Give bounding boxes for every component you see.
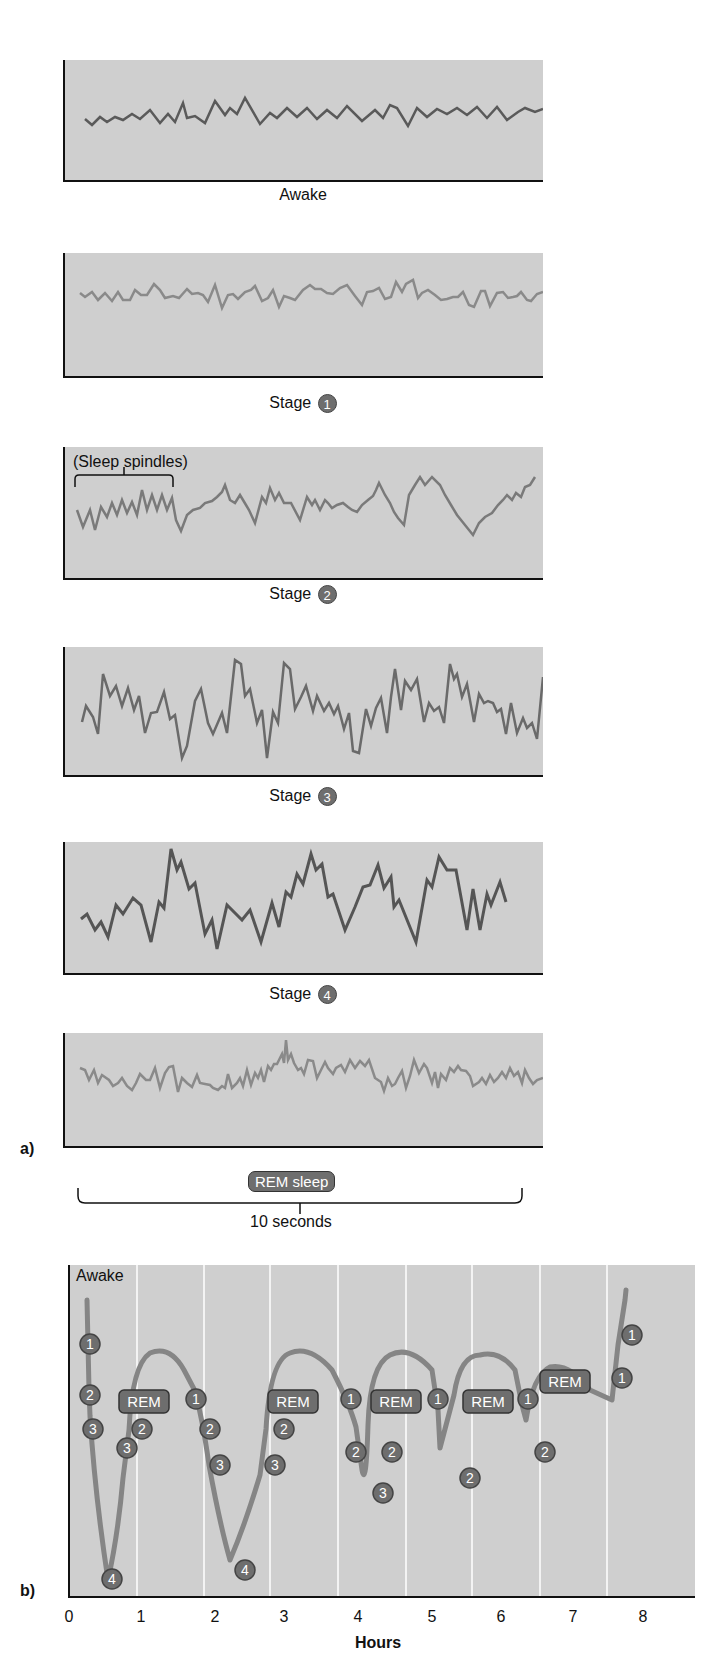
svg-text:2: 2 [280,1421,288,1437]
svg-text:3: 3 [123,1440,131,1456]
awake-axis-label: Awake [76,1267,124,1285]
svg-text:2: 2 [388,1444,396,1460]
marker-stage-1: 1 [341,1389,361,1409]
marker-stage-2: 2 [460,1468,480,1488]
x-tick: 7 [569,1608,578,1626]
panel-label-stage3: Stage 3 [0,787,606,806]
eeg-panel-rem [63,1033,543,1148]
marker-stage-1: 1 [80,1334,100,1354]
marker-rem: REM [119,1390,169,1413]
eeg-panel-stage3 [63,647,543,777]
eeg-panel-awake [63,60,543,182]
svg-text:1: 1 [524,1391,532,1407]
svg-text:REM: REM [276,1393,309,1410]
svg-text:2: 2 [541,1444,549,1460]
svg-text:2: 2 [138,1421,146,1437]
svg-text:1: 1 [628,1327,636,1343]
marker-stage-2: 2 [80,1385,100,1405]
marker-stage-2: 2 [535,1442,555,1462]
time-scale-label: 10 seconds [250,1213,332,1231]
label-text: Stage [269,985,311,1002]
marker-rem: REM [540,1370,590,1393]
eeg-trace-stage1 [65,253,543,376]
svg-text:3: 3 [89,1421,97,1437]
panel-label-stage4: Stage 4 [0,985,606,1004]
marker-stage-3: 3 [117,1438,137,1458]
marker-stage-2: 2 [132,1419,152,1439]
eeg-panel-stage2: (Sleep spindles) [63,447,543,580]
marker-stage-4: 4 [102,1569,122,1589]
hypnogram-line [87,1290,626,1580]
svg-text:2: 2 [466,1470,474,1486]
svg-text:2: 2 [352,1444,360,1460]
part-a-label: a) [20,1140,34,1158]
stage-badge: 2 [318,585,337,604]
sleep-spindles-annotation: (Sleep spindles) [73,453,188,470]
eeg-trace-rem [65,1033,543,1146]
marker-stage-3: 3 [265,1455,285,1475]
svg-text:REM: REM [548,1373,581,1390]
marker-stage-3: 3 [373,1483,393,1503]
label-text: Stage [269,585,311,602]
eeg-panel-stage4 [63,842,543,975]
svg-text:4: 4 [108,1571,116,1587]
marker-stage-3: 3 [210,1455,230,1475]
label-text: Stage [269,787,311,804]
x-tick: 5 [428,1608,437,1626]
part-b-label: b) [20,1582,35,1600]
svg-text:3: 3 [379,1485,387,1501]
eeg-trace-stage4 [65,842,543,973]
panel-label-stage1: Stage 1 [0,394,606,413]
ten-seconds-bracket [70,1186,530,1216]
stage-badge: 4 [318,985,337,1004]
label-text: Awake [279,186,327,203]
marker-stage-1: 1 [612,1368,632,1388]
x-tick: 3 [280,1608,289,1626]
marker-stage-3: 3 [83,1419,103,1439]
hypnogram-plot: 1 2 3 4 3 2 1 2 3 4 3 2 1 2 3 2 1 2 1 2 … [70,1265,695,1596]
x-tick: 4 [354,1608,363,1626]
svg-text:REM: REM [379,1393,412,1410]
eeg-trace-stage2: (Sleep spindles) [65,447,543,578]
marker-rem: REM [463,1390,513,1413]
hypnogram-chart: 1 2 3 4 3 2 1 2 3 4 3 2 1 2 3 2 1 2 1 2 … [68,1265,695,1598]
marker-stage-2: 2 [382,1442,402,1462]
svg-text:1: 1 [618,1370,626,1386]
marker-stage-1: 1 [186,1389,206,1409]
svg-text:2: 2 [86,1387,94,1403]
marker-stage-2: 2 [274,1419,294,1439]
panel-label-stage2: Stage 2 [0,585,606,604]
stage-badge: 3 [318,787,337,806]
marker-stage-1: 1 [428,1389,448,1409]
marker-rem: REM [371,1390,421,1413]
svg-text:1: 1 [86,1336,94,1352]
x-tick: 8 [639,1608,648,1626]
panel-label-awake: Awake [0,186,606,204]
eeg-panel-stage1 [63,253,543,378]
svg-text:REM: REM [471,1393,504,1410]
marker-stage-2: 2 [200,1419,220,1439]
spindles-bracket [75,467,173,487]
stage-badge: 1 [318,394,337,413]
eeg-trace-stage3 [65,647,543,775]
eeg-trace-awake [65,60,543,180]
x-axis-title: Hours [355,1634,401,1652]
svg-text:1: 1 [347,1391,355,1407]
marker-stage-1: 1 [518,1389,538,1409]
x-tick: 1 [137,1608,146,1626]
svg-text:4: 4 [241,1562,249,1578]
marker-stage-1: 1 [622,1325,642,1345]
x-tick: 0 [65,1608,74,1626]
x-tick: 2 [211,1608,220,1626]
svg-text:2: 2 [206,1421,214,1437]
x-tick: 6 [497,1608,506,1626]
svg-text:1: 1 [434,1391,442,1407]
marker-rem: REM [268,1390,318,1413]
marker-stage-2: 2 [346,1442,366,1462]
marker-stage-4: 4 [235,1560,255,1580]
svg-text:3: 3 [216,1457,224,1473]
label-text: Stage [269,394,311,411]
svg-text:1: 1 [192,1391,200,1407]
svg-text:REM: REM [127,1393,160,1410]
svg-text:3: 3 [271,1457,279,1473]
